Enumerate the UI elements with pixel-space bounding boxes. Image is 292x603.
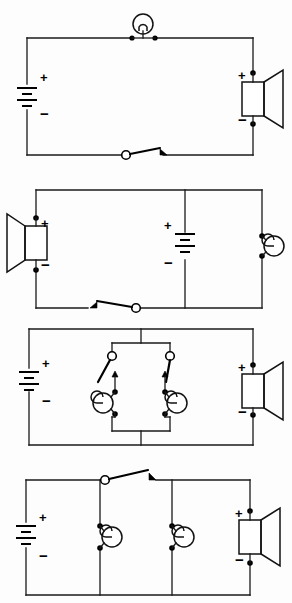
circuit-2-wires bbox=[36, 190, 262, 308]
speaker-4-minus-label: − bbox=[235, 551, 244, 568]
circuit-3-diagram: + − bbox=[0, 320, 292, 465]
battery-4: + − bbox=[16, 510, 48, 564]
circuit-1-wires bbox=[27, 38, 253, 155]
circuit-1-diagram: + − + − bbox=[0, 0, 292, 170]
switch-3-left-pivot bbox=[108, 352, 117, 361]
switch-1-pivot bbox=[122, 151, 131, 160]
speaker-2-plus-label: + bbox=[41, 216, 49, 231]
speaker-2-minus-label: − bbox=[41, 256, 50, 273]
battery-3-minus-label: − bbox=[42, 392, 51, 409]
switch-2[interactable] bbox=[90, 301, 140, 312]
buzzer-3-left bbox=[91, 389, 118, 417]
buzzer-3-right bbox=[162, 389, 187, 417]
circuit-4-wires bbox=[26, 480, 250, 595]
buzzer-4-right bbox=[169, 523, 194, 551]
circuit-worksheet-sheet: + − + − bbox=[0, 0, 292, 603]
speaker-1-plus-label: + bbox=[238, 68, 246, 83]
buzzer-2 bbox=[259, 233, 284, 259]
speaker-1: + − bbox=[238, 68, 283, 128]
switch-1[interactable] bbox=[122, 148, 167, 159]
battery-2: + − bbox=[164, 218, 195, 271]
battery-1: + − bbox=[17, 70, 49, 122]
switch-1-contact bbox=[160, 149, 167, 155]
speaker-4: + − bbox=[235, 506, 280, 568]
speaker-3-plus-label: + bbox=[238, 360, 246, 375]
circuit-4-diagram: + − bbox=[0, 460, 292, 603]
switch-2-contact bbox=[90, 302, 97, 308]
speaker-4-plus-label: + bbox=[235, 506, 243, 521]
battery-4-plus-label: + bbox=[39, 510, 47, 525]
speaker-2: + − bbox=[7, 214, 50, 273]
switch-2-pivot bbox=[132, 304, 141, 313]
speaker-3-minus-label: − bbox=[238, 403, 247, 420]
lamp-1 bbox=[129, 14, 157, 41]
battery-4-minus-label: − bbox=[39, 547, 48, 564]
switch-4-contact bbox=[149, 473, 156, 480]
circuit-2-diagram: + − + − bbox=[0, 178, 292, 326]
switch-4[interactable] bbox=[101, 470, 156, 484]
switch-3-left[interactable] bbox=[98, 352, 118, 390]
circuit-3-wires bbox=[29, 329, 253, 445]
battery-3-plus-label: + bbox=[42, 356, 50, 371]
switch-3-right[interactable] bbox=[162, 352, 174, 390]
battery-3: + − bbox=[19, 356, 51, 409]
battery-2-minus-label: − bbox=[164, 254, 173, 271]
buzzer-4-left bbox=[97, 523, 122, 551]
speaker-3: + − bbox=[238, 360, 283, 420]
switch-4-pivot bbox=[101, 476, 110, 485]
battery-1-plus-label: + bbox=[40, 70, 48, 85]
battery-2-plus-label: + bbox=[164, 218, 172, 233]
battery-1-minus-label: − bbox=[40, 105, 49, 122]
speaker-1-minus-label: − bbox=[238, 111, 247, 128]
